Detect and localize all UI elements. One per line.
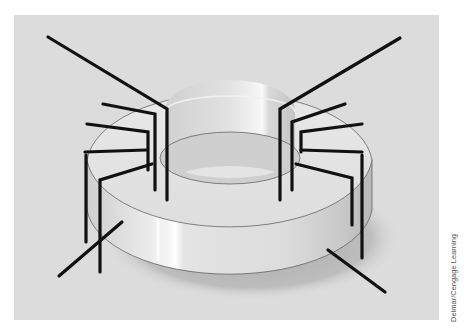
image-credit: Delmar/Cengage Learning — [449, 234, 458, 322]
left-turn-3 — [85, 150, 146, 152]
right-turn-3 — [301, 150, 362, 152]
toroid-diagram — [0, 0, 467, 334]
